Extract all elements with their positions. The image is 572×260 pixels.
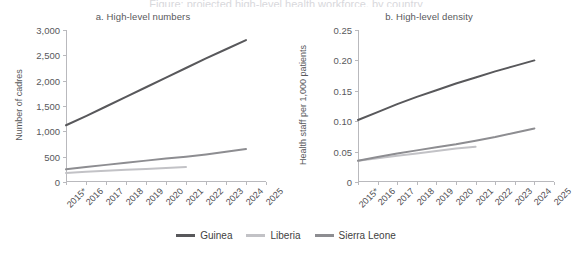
legend-label: Liberia	[270, 230, 300, 241]
x-tick-label: 2020	[454, 186, 475, 207]
y-tick-label: 1,500	[6, 101, 66, 112]
series-layer	[358, 30, 554, 182]
x-tick-label: 2017	[104, 186, 125, 207]
x-tick-mark	[554, 182, 555, 185]
y-tick-label: 0.20	[298, 55, 358, 66]
y-tick-label: 0	[6, 177, 66, 188]
panel-a-plot-area: 05001,0001,5002,0002,5003,0002015*201620…	[66, 30, 266, 182]
y-tick-label: 0.10	[298, 116, 358, 127]
x-tick-label: 2017	[395, 186, 416, 207]
cropped-figure-title: Figure: projected high-level health work…	[0, 0, 572, 7]
x-tick-mark	[515, 182, 516, 185]
x-tick-label: 2024	[532, 186, 553, 207]
x-tick-label: 2023	[513, 186, 534, 207]
x-tick-mark	[495, 182, 496, 185]
legend-item-guinea[interactable]: Guinea	[176, 230, 232, 241]
panel-a-title: a. High-level numbers	[0, 11, 286, 22]
x-tick-mark	[358, 182, 359, 185]
chart-legend: GuineaLiberiaSierra Leone	[0, 230, 572, 241]
x-tick-label: 2016	[84, 186, 105, 207]
x-tick-mark	[66, 182, 67, 185]
series-line-sierra-leone	[66, 149, 246, 169]
y-tick-label: 3,000	[6, 25, 66, 36]
legend-label: Sierra Leone	[339, 230, 396, 241]
legend-item-sierra-leone[interactable]: Sierra Leone	[315, 230, 396, 241]
x-tick-mark	[186, 182, 187, 185]
panel-high-level-numbers: a. High-level numbers Number of cadres 0…	[0, 8, 286, 223]
x-tick-mark	[226, 182, 227, 185]
panel-b-y-axis-label: Health staff per 1,000 patients	[298, 14, 308, 196]
x-tick-label: 2018	[415, 186, 436, 207]
x-tick-label: 2019	[144, 186, 165, 207]
chart-panels: a. High-level numbers Number of cadres 0…	[0, 8, 572, 223]
x-tick-mark	[206, 182, 207, 185]
x-tick-mark	[417, 182, 418, 185]
x-tick-label: 2025	[552, 186, 572, 207]
x-tick-label: 2021	[184, 186, 205, 207]
x-tick-mark	[534, 182, 535, 185]
panel-b-title: b. High-level density	[286, 11, 572, 22]
legend-swatch-icon	[246, 234, 265, 236]
x-tick-mark	[246, 182, 247, 185]
panel-b-plot-area: 00.050.100.150.200.252015*20162017201820…	[358, 30, 554, 182]
x-tick-mark	[456, 182, 457, 185]
x-tick-label: 2025	[264, 186, 285, 207]
x-tick-mark	[266, 182, 267, 185]
y-tick-label: 0	[298, 177, 358, 188]
series-line-liberia	[358, 147, 476, 161]
y-tick-label: 1,000	[6, 126, 66, 137]
legend-swatch-icon	[176, 234, 195, 236]
series-line-sierra-leone	[358, 129, 534, 161]
x-tick-label: 2020	[164, 186, 185, 207]
legend-label: Guinea	[200, 230, 232, 241]
x-tick-label: 2021	[473, 186, 494, 207]
x-tick-label: 2019	[434, 186, 455, 207]
series-layer	[66, 30, 266, 182]
x-tick-label: 2018	[124, 186, 145, 207]
y-tick-label: 0.25	[298, 25, 358, 36]
y-tick-label: 2,500	[6, 50, 66, 61]
x-tick-label: 2023	[224, 186, 245, 207]
x-tick-mark	[106, 182, 107, 185]
x-tick-mark	[397, 182, 398, 185]
legend-item-liberia[interactable]: Liberia	[246, 230, 300, 241]
y-tick-label: 0.05	[298, 146, 358, 157]
y-tick-label: 2,000	[6, 75, 66, 86]
x-tick-mark	[146, 182, 147, 185]
x-tick-mark	[378, 182, 379, 185]
x-tick-label: 2024	[244, 186, 265, 207]
x-tick-mark	[436, 182, 437, 185]
series-line-guinea	[66, 40, 246, 125]
y-tick-label: 0.15	[298, 85, 358, 96]
x-tick-mark	[476, 182, 477, 185]
series-line-guinea	[358, 60, 534, 120]
panel-high-level-density: b. High-level density Health staff per 1…	[286, 8, 572, 223]
y-tick-label: 500	[6, 151, 66, 162]
x-tick-label: 2016	[375, 186, 396, 207]
x-tick-label: 2022	[493, 186, 514, 207]
legend-swatch-icon	[315, 234, 334, 236]
x-tick-mark	[166, 182, 167, 185]
x-tick-mark	[126, 182, 127, 185]
x-tick-label: 2022	[204, 186, 225, 207]
x-tick-mark	[86, 182, 87, 185]
